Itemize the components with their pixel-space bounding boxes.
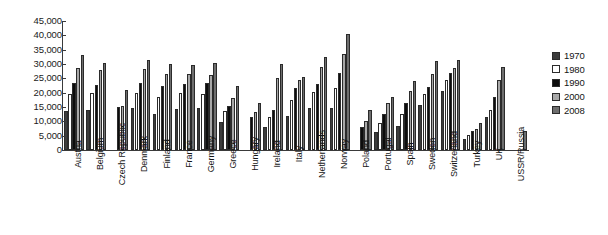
bar-1980 xyxy=(467,135,470,150)
bar-1970 xyxy=(263,127,266,150)
bar-group xyxy=(262,21,284,150)
x-axis-label: Norway xyxy=(340,139,349,169)
x-axis-label: France xyxy=(185,140,194,168)
bar-1970 xyxy=(441,91,444,150)
bar-1980 xyxy=(179,93,182,150)
x-axis-label-cell: Spain xyxy=(395,152,417,235)
legend-label: 1970 xyxy=(564,51,585,60)
x-axis-label: Switzerland xyxy=(450,131,459,177)
legend-label: 1980 xyxy=(564,65,585,74)
y-axis-tick-label: 45,000 xyxy=(8,16,62,25)
y-axis-tick-mark xyxy=(62,21,66,22)
x-axis-label-cell: Germany xyxy=(196,152,218,235)
bar-1980 xyxy=(135,93,138,150)
y-axis-tick-mark xyxy=(62,35,66,36)
legend-swatch-icon xyxy=(552,93,560,101)
bar-2008 xyxy=(435,61,438,150)
bar-group xyxy=(85,21,107,150)
x-axis-labels: AustriaBelgiumCzech RepublicDenmarkFinla… xyxy=(63,152,528,235)
bar-1970 xyxy=(396,126,399,150)
legend-item: 2000 xyxy=(552,90,608,104)
x-axis-label: Spain xyxy=(406,143,415,166)
x-axis-label: Sweden xyxy=(428,138,437,170)
bar-1970 xyxy=(374,132,377,150)
bar-1980 xyxy=(378,123,381,150)
bar-2000 xyxy=(497,80,500,150)
y-axis-tick-mark xyxy=(62,136,66,137)
y-axis-tick-mark xyxy=(62,121,66,122)
bar-1970 xyxy=(330,108,333,150)
x-axis-label-cell: Finland xyxy=(152,152,174,235)
y-axis-tick-label: 5,000 xyxy=(8,131,62,140)
bar-1990 xyxy=(294,88,297,150)
bar-group xyxy=(462,21,484,150)
x-axis-label: Hungary xyxy=(251,137,260,171)
bar-1990 xyxy=(493,97,496,150)
bar-1980 xyxy=(90,93,93,150)
bar-group xyxy=(484,21,506,150)
legend-swatch-icon xyxy=(552,65,560,73)
bar-group xyxy=(152,21,174,150)
legend-swatch-icon xyxy=(552,52,560,60)
x-axis-label-cell: Belgium xyxy=(85,152,107,235)
bar-group xyxy=(417,21,439,150)
bar-2008 xyxy=(413,81,416,150)
bar-1970 xyxy=(153,114,156,150)
bar-group xyxy=(240,21,262,150)
x-axis-label-cell: France xyxy=(174,152,196,235)
bar-1980 xyxy=(268,117,271,150)
bar-1980 xyxy=(423,94,426,150)
bar-group xyxy=(129,21,151,150)
bar-1980 xyxy=(290,100,293,150)
bar-1980 xyxy=(489,110,492,150)
x-axis-label-cell: Norway xyxy=(329,152,351,235)
legend-label: 2000 xyxy=(564,92,585,101)
x-axis-label-cell: USSR/Russia xyxy=(506,152,528,235)
bar-1980 xyxy=(68,94,71,150)
bar-1980 xyxy=(312,92,315,150)
bar-group xyxy=(351,21,373,150)
x-axis-label-cell: Portugal xyxy=(373,152,395,235)
bar-1980 xyxy=(445,80,448,150)
y-axis-tick-mark xyxy=(62,64,66,65)
bar-1970 xyxy=(308,108,311,150)
bar-2008 xyxy=(103,63,106,150)
bar-2000 xyxy=(409,91,412,150)
x-axis-label-cell: Ireland xyxy=(262,152,284,235)
x-axis-label: Czech Republic xyxy=(118,123,127,185)
y-axis: 45,00040,00035,00030,00025,00020,00015,0… xyxy=(0,0,62,151)
bar-2000 xyxy=(298,80,301,150)
bar-group xyxy=(218,21,240,150)
x-axis-label: UK xyxy=(495,148,504,160)
x-axis-label-cell: UK xyxy=(484,152,506,235)
bar-1970 xyxy=(485,117,488,150)
x-axis-label-cell: Austria xyxy=(63,152,85,235)
bar-1970 xyxy=(86,110,89,150)
bar-group xyxy=(329,21,351,150)
bar-2000 xyxy=(76,68,79,150)
bar-2008 xyxy=(191,65,194,150)
bar-1970 xyxy=(131,108,134,150)
legend-item: 1990 xyxy=(552,76,608,90)
x-axis-label: Italy xyxy=(295,146,304,162)
bar-2008 xyxy=(501,67,504,150)
legend-swatch-icon xyxy=(552,106,560,114)
bar-2008 xyxy=(302,77,305,150)
bar-1970 xyxy=(418,105,421,150)
bar-1970 xyxy=(197,108,200,150)
y-axis-tick-label: 40,000 xyxy=(8,30,62,39)
bar-1970 xyxy=(64,111,67,150)
legend-item: 2008 xyxy=(552,103,608,117)
x-axis-label: Greece xyxy=(229,139,238,168)
x-axis-label-cell: Turkey xyxy=(462,152,484,235)
bar-2000 xyxy=(276,78,279,150)
y-axis-tick-mark xyxy=(62,107,66,108)
bar-2000 xyxy=(187,74,190,150)
x-axis-label-cell: Denmark xyxy=(129,152,151,235)
x-axis-label: Germany xyxy=(207,136,216,173)
x-axis-label-cell: Hungary xyxy=(240,152,262,235)
y-axis-tick-label: 25,000 xyxy=(8,73,62,82)
x-axis-label: Ireland xyxy=(273,140,282,167)
bar-1980 xyxy=(157,97,160,150)
bar-2008 xyxy=(346,34,349,150)
